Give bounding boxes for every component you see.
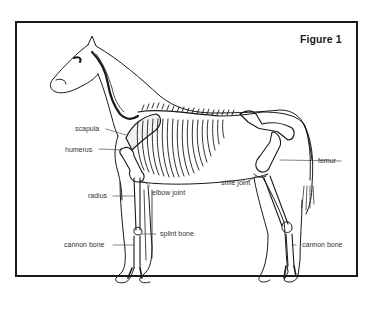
chest-outline xyxy=(115,136,122,200)
label-cannon-bone-front: cannon bone xyxy=(64,241,104,249)
label-radius: radius xyxy=(88,192,107,200)
foreleg-front-outline xyxy=(116,182,134,283)
cannon-bone-hind xyxy=(286,234,294,266)
body-outline xyxy=(88,36,310,180)
horse-skeleton-illustration xyxy=(0,0,373,310)
label-splint-bone: splint bone xyxy=(160,230,194,238)
label-humerus: humerus xyxy=(65,146,92,154)
cannon-bone-front xyxy=(134,236,140,268)
head-outline xyxy=(50,45,98,93)
radius-bone xyxy=(134,178,140,230)
label-elbow-joint: elbow joint xyxy=(152,189,185,197)
femur-bone xyxy=(256,132,281,172)
label-stifle-joint: stifle joint xyxy=(221,179,250,187)
cervical-vertebrae xyxy=(92,52,138,119)
humerus-bone xyxy=(120,147,144,182)
label-cannon-bone-hind: cannon bone xyxy=(302,241,342,249)
pelvis xyxy=(240,111,294,140)
label-scapula: scapula xyxy=(75,125,99,133)
tibia-bone xyxy=(264,176,288,226)
label-femur: femur xyxy=(318,157,336,165)
